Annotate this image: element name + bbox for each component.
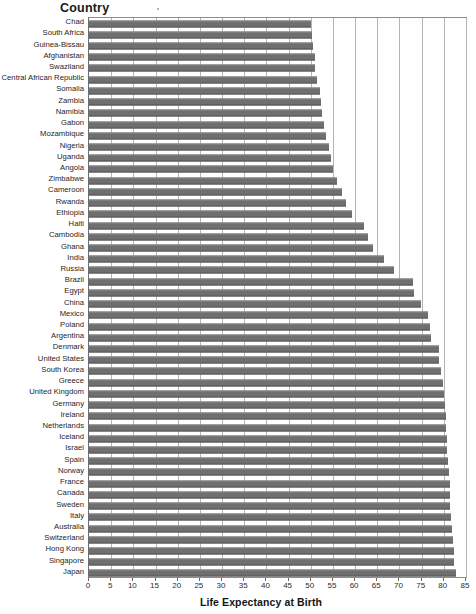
bar-row xyxy=(89,523,466,534)
bar-row xyxy=(89,422,466,433)
category-label: Angola xyxy=(60,163,84,172)
bar-rows xyxy=(89,18,466,577)
bar-row xyxy=(89,512,466,523)
x-tick-label: 10 xyxy=(128,581,137,590)
bar xyxy=(89,144,329,151)
category-label: Argentina xyxy=(51,331,84,340)
bar-row xyxy=(89,164,466,175)
category-label: Guinea-Bissau xyxy=(34,40,84,49)
category-label: Central African Republic xyxy=(2,73,84,82)
bar xyxy=(89,177,337,184)
bar-row xyxy=(89,186,466,197)
category-label: South Africa xyxy=(43,28,84,37)
category-label: Iceland xyxy=(59,432,84,441)
x-tick-label: 50 xyxy=(305,581,314,590)
category-label: Ghana xyxy=(61,242,84,251)
x-tick-label: 55 xyxy=(327,581,336,590)
category-label: Uganda xyxy=(57,152,84,161)
category-label: Mozambique xyxy=(40,129,84,138)
bar xyxy=(89,424,446,431)
decorative-dot xyxy=(157,8,159,10)
x-tick-label: 45 xyxy=(283,581,292,590)
x-tick-label: 30 xyxy=(217,581,226,590)
bar xyxy=(89,87,320,94)
bar-row xyxy=(89,299,466,310)
category-label: United States xyxy=(38,354,84,363)
bar xyxy=(89,312,428,319)
bar-row xyxy=(89,287,466,298)
bar-row xyxy=(89,52,466,63)
bar xyxy=(89,76,317,83)
x-tick-label: 25 xyxy=(194,581,203,590)
x-tick-label: 80 xyxy=(438,581,447,590)
bar-row xyxy=(89,63,466,74)
x-axis: 0510152025303540455055606570758085 xyxy=(88,578,467,596)
bar-row xyxy=(89,108,466,119)
bar xyxy=(89,188,342,195)
category-label: Somalia xyxy=(56,84,84,93)
bar-row xyxy=(89,433,466,444)
bar-row xyxy=(89,231,466,242)
bar xyxy=(89,31,312,38)
x-tick-label: 20 xyxy=(172,581,181,590)
bar xyxy=(89,413,446,420)
bar-row xyxy=(89,220,466,231)
bar xyxy=(89,402,445,409)
bar-row xyxy=(89,85,466,96)
bar xyxy=(89,379,443,386)
category-label: Germany xyxy=(52,399,84,408)
bar-row xyxy=(89,74,466,85)
category-label: Ethiopia xyxy=(56,208,84,217)
category-label: Haiti xyxy=(69,219,84,228)
category-label: Swaziland xyxy=(49,62,84,71)
category-label: Mexico xyxy=(60,309,84,318)
bar xyxy=(89,514,451,521)
category-label: China xyxy=(64,298,84,307)
bar xyxy=(89,547,454,554)
bar xyxy=(89,222,364,229)
bar xyxy=(89,480,450,487)
bar-row xyxy=(89,332,466,343)
bar-row xyxy=(89,545,466,556)
bar xyxy=(89,570,456,577)
bar-row xyxy=(89,399,466,410)
bar xyxy=(89,357,439,364)
bar xyxy=(89,20,311,27)
bar xyxy=(89,323,430,330)
category-label: Egypt xyxy=(64,286,84,295)
bar-row xyxy=(89,130,466,141)
bar-row xyxy=(89,141,466,152)
bar xyxy=(89,110,322,117)
bar xyxy=(89,536,453,543)
bar xyxy=(89,368,441,375)
category-label: Poland xyxy=(60,320,84,329)
bar xyxy=(89,233,368,240)
bar xyxy=(89,390,444,397)
bar xyxy=(89,446,447,453)
bar xyxy=(89,503,450,510)
x-tick-label: 60 xyxy=(350,581,359,590)
bar xyxy=(89,166,333,173)
bar xyxy=(89,132,326,139)
category-label: Gabon xyxy=(61,118,84,127)
category-label: Namibia xyxy=(56,107,84,116)
bar xyxy=(89,155,331,162)
bar-row xyxy=(89,388,466,399)
category-label: Netherlands xyxy=(43,421,84,430)
bar-row xyxy=(89,310,466,321)
x-axis-title-text: Life Expectancy at Birth xyxy=(200,596,322,608)
bar xyxy=(89,289,414,296)
chart-page: Country ChadSouth AfricaGuinea-BissauAfg… xyxy=(0,0,476,614)
bar xyxy=(89,267,394,274)
bar-row xyxy=(89,321,466,332)
bar-row xyxy=(89,343,466,354)
category-label: Rwanda xyxy=(56,197,84,206)
category-label: Cameroon xyxy=(48,185,84,194)
category-label: Denmark xyxy=(53,342,84,351)
bar-row xyxy=(89,355,466,366)
bar xyxy=(89,121,324,128)
bar xyxy=(89,334,431,341)
category-label: Australia xyxy=(54,522,84,531)
bar-row xyxy=(89,254,466,265)
bar-row xyxy=(89,97,466,108)
